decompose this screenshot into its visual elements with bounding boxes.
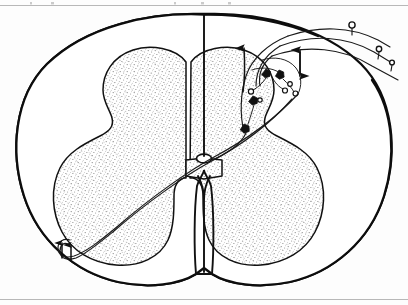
spinal-cord-diagram: [0, 0, 408, 305]
synaptic-bouton-2: [283, 88, 288, 93]
synaptic-bouton-4: [258, 98, 262, 102]
synaptic-bouton-1: [248, 89, 253, 94]
afferent-ending-3: [390, 60, 395, 65]
afferent-ending-2: [376, 46, 381, 51]
figure-root: Line drawing of a transverse section of …: [0, 0, 408, 305]
synaptic-bouton-5: [288, 82, 293, 87]
afferent-ending-1: [349, 22, 355, 28]
